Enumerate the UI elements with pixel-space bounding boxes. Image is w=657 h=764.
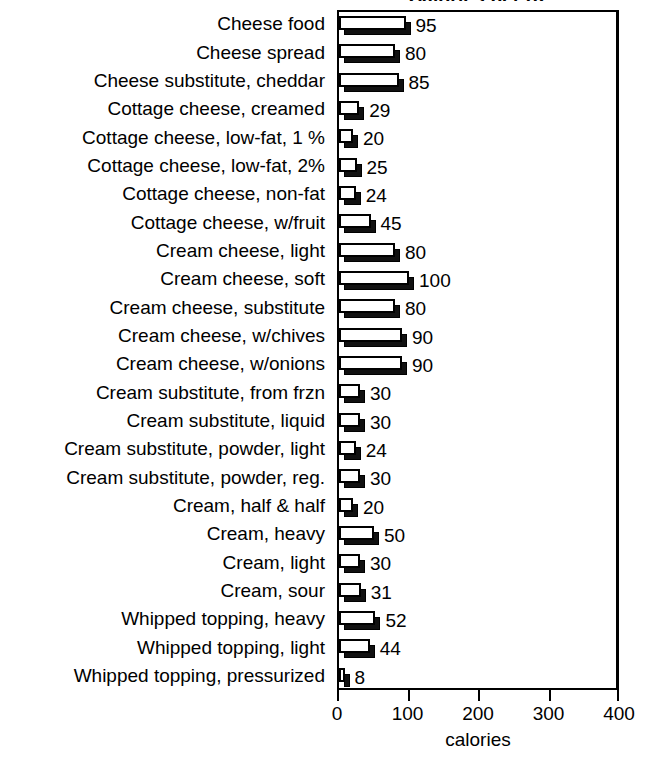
bar bbox=[339, 328, 402, 342]
bar-value-label: 29 bbox=[369, 101, 390, 120]
category-label: Cream, half & half bbox=[0, 496, 325, 515]
bar bbox=[339, 526, 374, 540]
bar-value-label: 85 bbox=[409, 73, 430, 92]
bar-chart: Calories per oz Cheese foodCheese spread… bbox=[0, 0, 657, 764]
category-label: Cottage cheese, non-fat bbox=[0, 184, 325, 203]
category-label: Whipped topping, pressurized bbox=[0, 666, 325, 685]
bar bbox=[339, 186, 356, 200]
bar bbox=[339, 129, 353, 143]
bar bbox=[339, 583, 361, 597]
category-label: Cheese substitute, cheddar bbox=[0, 71, 325, 90]
x-tick bbox=[337, 690, 339, 701]
category-label: Cream substitute, powder, reg. bbox=[0, 468, 325, 487]
bar-value-label: 25 bbox=[367, 158, 388, 177]
bar-row: 25 bbox=[339, 154, 621, 182]
category-label: Cream, heavy bbox=[0, 524, 325, 543]
bar-row: 80 bbox=[339, 295, 621, 323]
bar bbox=[339, 668, 345, 682]
bar bbox=[339, 384, 360, 398]
bar-row: 80 bbox=[339, 239, 621, 267]
bar-row: 20 bbox=[339, 494, 621, 522]
x-tick bbox=[549, 690, 551, 701]
bar bbox=[339, 441, 356, 455]
category-label: Cottage cheese, w/fruit bbox=[0, 213, 325, 232]
bar bbox=[339, 243, 395, 257]
bar-value-label: 31 bbox=[371, 583, 392, 602]
bar-value-label: 24 bbox=[366, 441, 387, 460]
bar bbox=[339, 498, 353, 512]
bar-row: 30 bbox=[339, 465, 621, 493]
bar bbox=[339, 611, 375, 625]
category-axis: Cheese foodCheese spreadCheese substitut… bbox=[0, 10, 331, 690]
bar-shadow bbox=[344, 674, 350, 687]
category-label: Cream substitute, liquid bbox=[0, 411, 325, 430]
bar-value-label: 80 bbox=[405, 243, 426, 262]
bar-value-label: 20 bbox=[363, 129, 384, 148]
bar-row: 44 bbox=[339, 635, 621, 663]
category-label: Cottage cheese, creamed bbox=[0, 99, 325, 118]
bar-row: 100 bbox=[339, 267, 621, 295]
category-label: Cream substitute, powder, light bbox=[0, 439, 325, 458]
bar-row: 20 bbox=[339, 125, 621, 153]
bar-row: 30 bbox=[339, 409, 621, 437]
category-label: Cottage cheese, low-fat, 1 % bbox=[0, 128, 325, 147]
bar-value-label: 30 bbox=[370, 384, 391, 403]
bar-value-label: 90 bbox=[412, 356, 433, 375]
bar-value-label: 30 bbox=[370, 413, 391, 432]
bar-row: 30 bbox=[339, 550, 621, 578]
category-label: Cream cheese, soft bbox=[0, 269, 325, 288]
bar-value-label: 24 bbox=[366, 186, 387, 205]
category-label: Cheese spread bbox=[0, 43, 325, 62]
bar-row: 24 bbox=[339, 437, 621, 465]
category-label: Whipped topping, light bbox=[0, 638, 325, 657]
bar-value-label: 30 bbox=[370, 554, 391, 573]
bar bbox=[339, 356, 402, 370]
bar-value-label: 44 bbox=[380, 639, 401, 658]
bar-value-label: 100 bbox=[419, 271, 451, 290]
bar bbox=[339, 639, 370, 653]
bar-value-label: 80 bbox=[405, 44, 426, 63]
bar-row: 95 bbox=[339, 12, 621, 40]
category-label: Cream cheese, light bbox=[0, 241, 325, 260]
x-tick bbox=[408, 690, 410, 701]
bar bbox=[339, 214, 371, 228]
category-label: Cream, light bbox=[0, 553, 325, 572]
bar-value-label: 45 bbox=[381, 214, 402, 233]
x-tick-label: 0 bbox=[332, 704, 343, 723]
bar bbox=[339, 101, 359, 115]
bar-row: 30 bbox=[339, 380, 621, 408]
bar bbox=[339, 469, 360, 483]
bar-row: 8 bbox=[339, 664, 621, 692]
bar bbox=[339, 299, 395, 313]
category-label: Cream cheese, substitute bbox=[0, 298, 325, 317]
x-tick bbox=[478, 690, 480, 701]
bar-value-label: 20 bbox=[363, 498, 384, 517]
category-label: Cheese food bbox=[0, 14, 325, 33]
bar-value-label: 50 bbox=[384, 526, 405, 545]
bar bbox=[339, 16, 406, 30]
x-tick-label: 100 bbox=[392, 704, 424, 723]
bar-row: 85 bbox=[339, 69, 621, 97]
bar bbox=[339, 158, 357, 172]
bar bbox=[339, 271, 409, 285]
category-label: Whipped topping, heavy bbox=[0, 609, 325, 628]
bar-row: 24 bbox=[339, 182, 621, 210]
bar-value-label: 30 bbox=[370, 469, 391, 488]
bar bbox=[339, 73, 399, 87]
bar-row: 45 bbox=[339, 210, 621, 238]
bar bbox=[339, 44, 395, 58]
bar-row: 90 bbox=[339, 352, 621, 380]
bar-value-label: 90 bbox=[412, 328, 433, 347]
category-label: Cream cheese, w/chives bbox=[0, 326, 325, 345]
bar-row: 90 bbox=[339, 324, 621, 352]
bar-row: 80 bbox=[339, 40, 621, 68]
bar-row: 52 bbox=[339, 607, 621, 635]
category-label: Cream, sour bbox=[0, 581, 325, 600]
bar-row: 29 bbox=[339, 97, 621, 125]
bar-row: 50 bbox=[339, 522, 621, 550]
bar bbox=[339, 413, 360, 427]
bar bbox=[339, 554, 360, 568]
bar-value-label: 52 bbox=[385, 611, 406, 630]
plot-area: 9580852920252445801008090903030243020503… bbox=[337, 10, 619, 690]
chart-title: Calories per oz bbox=[337, 0, 619, 1]
